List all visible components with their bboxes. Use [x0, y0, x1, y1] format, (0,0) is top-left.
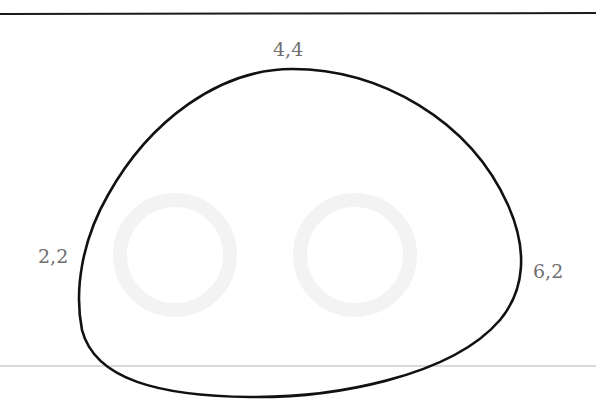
figure-canvas	[0, 0, 596, 415]
figure: 4,4 2,2 6,2	[0, 0, 596, 415]
top-rule	[0, 13, 596, 14]
ghost-circle	[300, 200, 410, 310]
label-left: 2,2	[38, 247, 68, 266]
label-right: 6,2	[533, 262, 563, 281]
label-top: 4,4	[273, 40, 303, 59]
ghost-circle	[120, 200, 230, 310]
